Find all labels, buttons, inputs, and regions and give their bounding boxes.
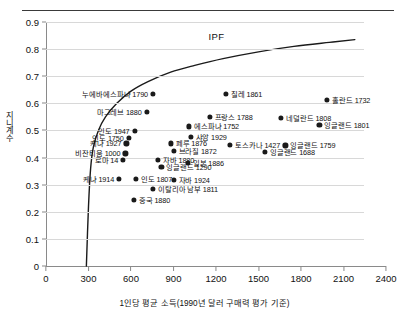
data-point-label: 로마 14	[95, 155, 118, 165]
data-point-label: 이탈리아 남부 1811	[158, 184, 218, 194]
y-axis-tick-mark	[42, 49, 46, 50]
x-axis-tick: 300	[81, 266, 97, 284]
x-axis-tick-mark	[258, 266, 259, 271]
x-axis-tick-label: 600	[123, 273, 139, 284]
x-axis-tick-label: 1500	[248, 273, 269, 284]
data-point-label: 에스파냐 1752	[194, 121, 239, 131]
data-point-label: 케냐 1927	[90, 138, 121, 148]
plot-area: IPF 00.10.20.30.40.50.60.70.80.9누에바에스파냐 …	[46, 22, 364, 266]
top-divider-rule	[22, 10, 394, 11]
gridline-horizontal	[46, 103, 364, 104]
x-axis-tick-mark	[88, 266, 89, 271]
data-point-label: 마그레브 1880	[97, 107, 142, 117]
x-axis-tick-mark	[45, 266, 46, 271]
x-axis-tick-mark	[130, 266, 131, 271]
gridline-horizontal	[46, 212, 364, 213]
x-axis-tick: 900	[166, 266, 182, 284]
chart-root: 지니계수 1인당 평균 소득(1990년 달러 구매력 평가 기준) IPF 0…	[0, 0, 409, 324]
x-axis-title: 1인당 평균 소득(1990년 달러 구매력 평가 기준)	[0, 296, 409, 308]
x-axis-tick-label: 2400	[375, 273, 396, 284]
data-point-label: 잉글랜드 1688	[270, 147, 315, 157]
data-point-label: 일본 1886	[193, 158, 224, 168]
ipf-curve-label: IPF	[209, 31, 225, 42]
x-axis-tick-mark	[385, 266, 386, 271]
x-axis-tick-label: 0	[43, 273, 48, 284]
x-axis-tick-mark	[343, 266, 344, 271]
x-axis-tick: 1500	[248, 266, 269, 284]
data-point-label: 잉글랜드 1801	[324, 120, 369, 130]
y-axis-tick-mark	[42, 22, 46, 23]
data-point-label: 누에바에스파냐 1790	[82, 89, 147, 99]
y-axis-title: 지니계수	[2, 111, 14, 141]
y-axis-tick-mark	[42, 103, 46, 104]
x-axis-tick-label: 1800	[290, 273, 311, 284]
x-axis-tick-mark	[173, 266, 174, 271]
y-axis-tick-mark	[42, 157, 46, 158]
data-point-label: 케냐 1914	[83, 174, 114, 184]
data-point-label: 칠레 1861	[231, 89, 262, 99]
y-axis-tick-mark	[42, 184, 46, 185]
x-axis-tick: 600	[123, 266, 139, 284]
x-axis-tick-label: 1200	[205, 273, 226, 284]
x-axis-tick-label: 2100	[333, 273, 354, 284]
x-axis-tick: 2400	[375, 266, 396, 284]
x-axis-tick: 2100	[333, 266, 354, 284]
x-axis-tick: 1800	[290, 266, 311, 284]
gridline-horizontal	[46, 49, 364, 50]
y-axis-tick-mark	[42, 130, 46, 131]
gridline-horizontal	[46, 76, 364, 77]
y-axis-tick-mark	[42, 76, 46, 77]
data-point-label: 홀란드 1732	[332, 95, 370, 105]
x-axis-tick-mark	[215, 266, 216, 271]
data-point-label: 중국 1880	[139, 195, 170, 205]
data-point-label: 프랑스 1788	[215, 112, 253, 122]
y-axis-tick-mark	[42, 238, 46, 239]
gridline-horizontal	[46, 239, 364, 240]
x-axis-tick: 0	[43, 266, 48, 284]
y-axis-tick-mark	[42, 211, 46, 212]
x-axis-tick-label: 300	[81, 273, 97, 284]
gridline-horizontal	[46, 22, 364, 23]
x-axis-tick: 1200	[205, 266, 226, 284]
x-axis-tick-label: 900	[166, 273, 182, 284]
x-axis-tick-mark	[300, 266, 301, 271]
